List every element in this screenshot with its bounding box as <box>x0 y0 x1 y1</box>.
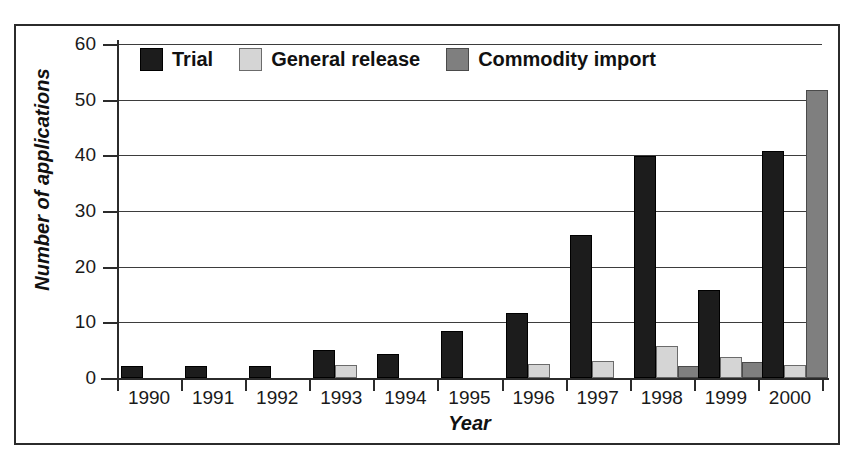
x-tick-label: 1995 <box>435 387 505 409</box>
bar-trial-1990 <box>121 366 143 378</box>
y-axis-title: Number of applications <box>31 30 54 330</box>
legend-swatch-trial-icon <box>140 48 163 71</box>
x-tick-label: 1998 <box>627 387 697 409</box>
bar-trial-1996 <box>506 313 528 378</box>
bar-trial-1999 <box>698 290 720 379</box>
bar-commodity-1998 <box>678 366 700 378</box>
y-tick-label: 10 <box>50 312 96 331</box>
x-tick-label: 1997 <box>563 387 633 409</box>
bar-trial-2000 <box>762 151 784 378</box>
figure-bar-chart-applications: 0102030405060 Number of applications Yea… <box>0 0 858 461</box>
bar-trial-1994 <box>377 354 399 378</box>
legend-swatch-general-icon <box>239 48 262 71</box>
x-tick-label: 1993 <box>306 387 376 409</box>
y-tick-label: 40 <box>50 145 96 164</box>
y-tick-label: 60 <box>50 34 96 53</box>
bar-trial-1997 <box>570 235 592 378</box>
bar-general-1993 <box>335 365 357 378</box>
bar-general-1999 <box>720 357 742 378</box>
x-tick-label: 1990 <box>114 387 184 409</box>
bar-commodity-1999 <box>742 362 764 378</box>
x-tick-label: 1991 <box>178 387 248 409</box>
legend-label: Commodity import <box>478 48 656 71</box>
y-tick-label: 0 <box>50 368 96 387</box>
bar-trial-1998 <box>634 156 656 378</box>
legend-item-commodity: Commodity import <box>446 48 656 71</box>
legend-swatch-commodity-icon <box>446 48 469 71</box>
x-tick-mark <box>822 378 824 391</box>
chart-legend: TrialGeneral releaseCommodity import <box>140 48 656 71</box>
bar-general-1996 <box>528 364 550 378</box>
x-tick-label: 1999 <box>691 387 761 409</box>
legend-item-general: General release <box>239 48 420 71</box>
y-tick-label: 30 <box>50 201 96 220</box>
legend-label: Trial <box>172 48 213 71</box>
y-tick-label: 50 <box>50 90 96 109</box>
x-tick-label: 2000 <box>755 387 825 409</box>
x-tick-label: 1994 <box>370 387 440 409</box>
bar-trial-1991 <box>185 366 207 378</box>
x-tick-label: 1992 <box>242 387 312 409</box>
bar-general-2000 <box>784 365 806 378</box>
y-tick-mark <box>103 267 118 269</box>
legend-item-trial: Trial <box>140 48 213 71</box>
plot-area <box>117 44 822 378</box>
y-tick-mark <box>103 100 118 102</box>
y-tick-mark <box>103 322 118 324</box>
bar-general-1998 <box>656 346 678 378</box>
y-tick-mark <box>103 211 118 213</box>
bar-commodity-2000 <box>806 90 828 378</box>
x-tick-label: 1996 <box>499 387 569 409</box>
bar-trial-1995 <box>441 331 463 378</box>
bar-general-1997 <box>592 361 614 378</box>
y-tick-mark <box>103 44 118 46</box>
bar-trial-1992 <box>249 366 271 378</box>
y-tick-label: 20 <box>50 257 96 276</box>
y-tick-mark <box>103 155 118 157</box>
legend-label: General release <box>271 48 420 71</box>
bar-trial-1993 <box>313 350 335 378</box>
x-axis-line <box>101 378 829 380</box>
x-axis-title: Year <box>117 412 822 435</box>
